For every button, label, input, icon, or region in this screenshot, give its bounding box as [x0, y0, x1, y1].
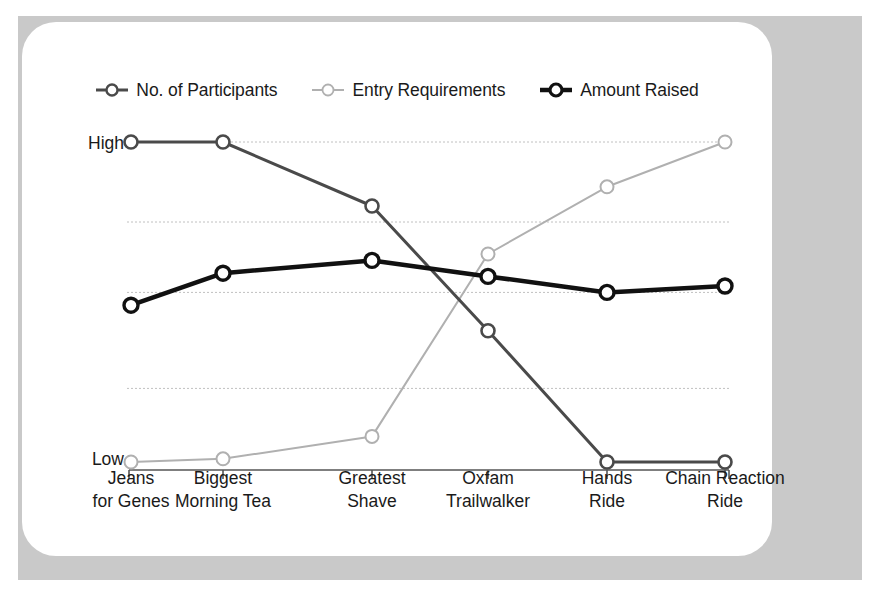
x-axis-category-line: for Genes — [93, 490, 170, 513]
data-point-marker[interactable] — [124, 298, 138, 312]
x-axis-category-label: HandsRide — [582, 467, 633, 513]
x-axis-category-label: Chain ReactionRide — [665, 467, 785, 513]
data-point-marker[interactable] — [366, 200, 379, 213]
x-axis-category-label: Jeansfor Genes — [93, 467, 170, 513]
data-point-marker[interactable] — [482, 324, 495, 337]
x-axis-category-line: Chain Reaction — [665, 467, 785, 490]
screenshot-root: No. of ParticipantsEntry RequirementsAmo… — [0, 0, 880, 611]
x-axis-labels: Jeansfor GenesBiggestMorning TeaGreatest… — [22, 467, 772, 537]
y-axis-label-high: High — [44, 133, 124, 154]
x-axis-category-label: BiggestMorning Tea — [175, 467, 271, 513]
chart-card: No. of ParticipantsEntry RequirementsAmo… — [22, 22, 772, 556]
data-point-marker[interactable] — [366, 430, 379, 443]
data-point-marker[interactable] — [125, 136, 138, 149]
data-point-marker[interactable] — [217, 452, 230, 465]
x-axis-category-line: Ride — [582, 490, 633, 513]
x-axis-category-line: Greatest — [338, 467, 405, 490]
x-axis-category-line: Trailwalker — [446, 490, 530, 513]
chart-series — [124, 253, 732, 312]
data-point-marker[interactable] — [718, 279, 732, 293]
data-point-marker[interactable] — [482, 248, 495, 261]
x-axis-category-label: OxfamTrailwalker — [446, 467, 530, 513]
x-axis-category-line: Morning Tea — [175, 490, 271, 513]
x-axis-category-label: GreatestShave — [338, 467, 405, 513]
data-point-marker[interactable] — [481, 269, 495, 283]
data-point-marker[interactable] — [601, 180, 614, 193]
x-axis-category-line: Jeans — [93, 467, 170, 490]
data-point-marker[interactable] — [719, 136, 732, 149]
data-point-marker[interactable] — [216, 266, 230, 280]
data-point-marker[interactable] — [365, 253, 379, 267]
data-point-marker[interactable] — [600, 285, 614, 299]
series-group — [124, 136, 732, 469]
data-point-marker[interactable] — [217, 136, 230, 149]
chart-series — [125, 136, 732, 469]
series-line — [131, 142, 725, 462]
x-axis-category-line: Shave — [338, 490, 405, 513]
series-line — [131, 142, 725, 462]
chart-series — [125, 136, 732, 469]
x-axis-category-line: Hands — [582, 467, 633, 490]
x-axis-category-line: Ride — [665, 490, 785, 513]
x-axis-category-line: Biggest — [175, 467, 271, 490]
x-axis-category-line: Oxfam — [446, 467, 530, 490]
